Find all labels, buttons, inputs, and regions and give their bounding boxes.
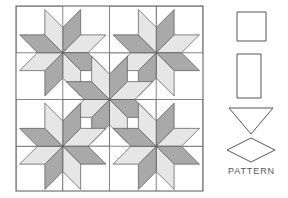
square-template xyxy=(237,12,266,41)
diamond-template xyxy=(227,138,275,162)
rectangle-template xyxy=(237,54,261,98)
pattern-figure: PATTERN xyxy=(0,0,288,198)
legend-label: PATTERN xyxy=(228,166,288,176)
triangle-template xyxy=(229,108,273,134)
